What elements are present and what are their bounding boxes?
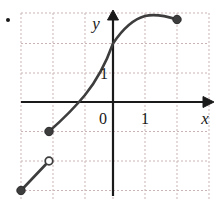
- x-tick-label-one: 1: [141, 110, 149, 127]
- x-axis-label: x: [200, 109, 209, 128]
- y-axis-label: y: [90, 14, 100, 33]
- graph-figure: y x 0 1 1: [0, 0, 218, 205]
- line-segment: [21, 161, 49, 191]
- endpoint-filled-curve-left: [45, 127, 53, 135]
- origin-label: 0: [99, 110, 107, 127]
- bullet-marker: [6, 18, 10, 22]
- y-tick-label-one: 1: [100, 65, 108, 82]
- coordinate-plane: y x 0 1 1: [0, 0, 218, 205]
- endpoint-filled-segment: [17, 186, 25, 194]
- endpoint-open-segment: [45, 157, 53, 165]
- endpoint-filled-curve-right: [173, 15, 181, 23]
- y-axis-arrow: [108, 10, 119, 20]
